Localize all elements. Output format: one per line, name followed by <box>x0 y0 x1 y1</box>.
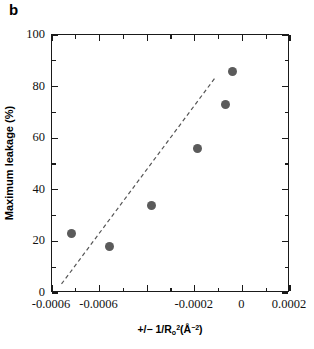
y-axis-minor-tick <box>52 112 56 113</box>
y-axis-tick-right <box>282 189 288 190</box>
y-axis-tick-label: 20 <box>5 234 45 247</box>
x-axis-tick-label: -0.0006 <box>59 298 139 311</box>
y-axis-minor-tick <box>52 267 56 268</box>
y-axis-tick <box>52 34 58 35</box>
x-axis-minor-tick <box>218 288 219 292</box>
x-axis-minor-tick-top <box>170 35 171 39</box>
y-axis-minor-tick-right <box>285 112 289 113</box>
panel-label: b <box>9 2 18 17</box>
y-axis-minor-tick-right <box>285 163 289 164</box>
figure-panel-b: b Maximum leakage (%) +/− 1/Ro2(Å−2) 020… <box>0 0 314 349</box>
data-point <box>105 242 114 251</box>
x-axis-tick-top <box>194 35 195 41</box>
y-axis-title: Maximum leakage (%) <box>3 106 15 220</box>
x-axis-minor-tick <box>147 288 148 292</box>
data-point <box>67 229 76 238</box>
y-axis-tick <box>52 138 58 139</box>
y-axis-tick-label: 40 <box>5 183 45 196</box>
x-axis-tick-top <box>51 35 52 41</box>
x-axis-title: +/− 1/Ro2(Å−2) <box>51 323 289 336</box>
data-point <box>147 201 156 210</box>
x-axis-tick-top <box>99 35 100 41</box>
x-axis-tick-top <box>289 35 290 41</box>
x-axis-title-prefix: +/− 1/R <box>137 323 171 335</box>
y-axis-tick <box>52 189 58 190</box>
x-axis-minor-tick-top <box>147 35 148 39</box>
y-axis-tick-label: 60 <box>5 131 45 144</box>
x-axis-minor-tick-top <box>123 35 124 39</box>
data-point <box>228 67 237 76</box>
y-axis-minor-tick <box>52 215 56 216</box>
x-axis-minor-tick-top <box>266 35 267 39</box>
y-axis-minor-tick-right <box>285 60 289 61</box>
y-axis-minor-tick-right <box>285 267 289 268</box>
x-axis-tick-top <box>242 35 243 41</box>
x-axis-tick <box>289 285 290 291</box>
x-axis-minor-tick <box>123 288 124 292</box>
y-axis-tick-right <box>282 138 288 139</box>
x-axis-unit-superscript: −2 <box>191 324 199 331</box>
x-axis-tick <box>51 285 52 291</box>
y-axis-tick-right <box>282 34 288 35</box>
y-axis-tick <box>52 292 58 293</box>
data-point <box>193 144 202 153</box>
x-axis-minor-tick <box>266 288 267 292</box>
x-axis-tick <box>99 285 100 291</box>
y-axis-tick-right <box>282 292 288 293</box>
y-axis-minor-tick <box>52 60 56 61</box>
y-axis-minor-tick <box>52 163 56 164</box>
x-axis-tick <box>194 285 195 291</box>
data-point <box>221 100 230 109</box>
y-axis-tick <box>52 86 58 87</box>
x-axis-minor-tick <box>170 288 171 292</box>
x-axis-minor-tick-top <box>75 35 76 39</box>
y-axis-tick-right <box>282 241 288 242</box>
trend-line-segment <box>62 76 217 284</box>
x-axis-minor-tick <box>75 288 76 292</box>
x-axis-tick <box>242 285 243 291</box>
trend-line <box>52 35 290 293</box>
y-axis-tick <box>52 241 58 242</box>
plot-area <box>51 34 289 292</box>
y-axis-tick-right <box>282 86 288 87</box>
x-axis-unit-close: ) <box>199 323 203 335</box>
y-axis-tick-label: 100 <box>5 28 45 41</box>
x-axis-tick-label: 0.0002 <box>249 298 314 311</box>
y-axis-tick-label: 80 <box>5 80 45 93</box>
y-axis-title-container: Maximum leakage (%) <box>0 34 18 292</box>
x-axis-minor-tick-top <box>218 35 219 39</box>
x-axis-unit-open: (Å <box>180 323 191 335</box>
y-axis-minor-tick-right <box>285 215 289 216</box>
